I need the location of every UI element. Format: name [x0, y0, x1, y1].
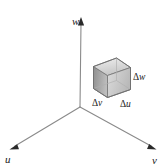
dimension-label-delta-v: Δv: [92, 99, 102, 109]
variable-w: w: [139, 72, 145, 82]
axis-w: [78, 17, 84, 107]
axis-u: [10, 107, 81, 150]
dimension-label-delta-w: Δw: [133, 73, 145, 83]
differential-box: [94, 58, 131, 98]
axis-label-u: u: [5, 154, 11, 165]
axis-label-v: v: [152, 155, 157, 166]
variable-v: v: [98, 98, 102, 108]
coordinate-system-figure: w u v Δw Δv Δu: [0, 0, 165, 168]
variable-u: u: [126, 99, 131, 109]
axis-label-w: w: [72, 16, 79, 27]
figure-canvas: [0, 0, 165, 168]
axis-v: [80, 107, 157, 150]
dimension-label-delta-u: Δu: [120, 100, 131, 110]
